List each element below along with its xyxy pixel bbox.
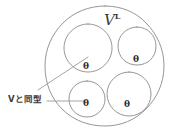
theta-label-top-left: θ — [83, 62, 89, 71]
outer-region-label: VL — [104, 12, 120, 28]
outer-region-label-superscript: L — [115, 11, 120, 21]
theta-label-bottom-right: θ — [124, 100, 130, 109]
isomorphic-annotation: Vと同型 — [8, 95, 43, 104]
outer-region-label-base: V — [104, 11, 115, 29]
bottom-right-circle-shape — [107, 72, 151, 116]
theta-label-bottom-left: θ — [83, 99, 89, 108]
diagram-canvas: VL θ θ θ θ Vと同型 — [0, 0, 177, 135]
theta-label-top-right: θ — [133, 55, 139, 64]
